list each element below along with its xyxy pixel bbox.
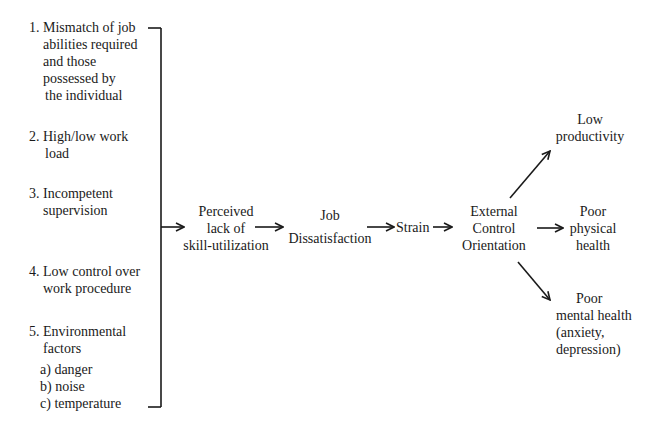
arrow-external-to-productivity [510,151,550,198]
node-strain: Strain [396,219,429,236]
outcome-poor-physical-health: Poor physical health [563,203,623,254]
node-external-control-orientation: External Control Orientation [454,203,534,254]
cause-4: 4. Low control over work procedure [29,263,140,297]
outcome-poor-mental-health: Poor mental health (anxiety, depression) [556,290,632,358]
node-perceived-skill-utilization: Perceived lack of skill-utilization [176,203,276,254]
cause-5: 5. Environmental factors a) danger b) no… [29,323,126,412]
arrow-external-to-mental [518,262,550,300]
cause-3: 3. Incompetent supervision [29,185,113,219]
causes-bracket [148,28,161,407]
node-job-dissatisfaction: Job Dissatisfaction [285,207,375,247]
cause-1: 1. Mismatch of job abilities required an… [29,19,137,104]
cause-2: 2. High/low work load [29,128,128,162]
outcome-low-productivity: Low productivity [550,111,630,145]
